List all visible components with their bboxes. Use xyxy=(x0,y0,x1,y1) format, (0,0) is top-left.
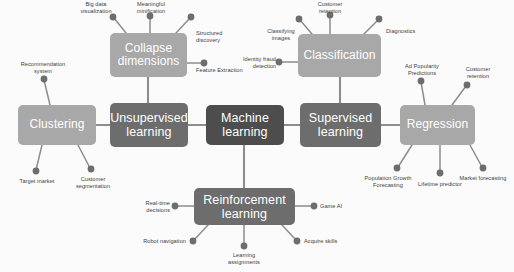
leaf-dot-population-growth-forecasting xyxy=(394,165,401,172)
leafedge-regression-1 xyxy=(421,82,425,105)
leaf-label-recommendation-system: Recommendation system xyxy=(10,61,76,75)
node-regression[interactable]: Regression xyxy=(400,105,475,145)
node-reinforcement-learning[interactable]: Reinforcement learning xyxy=(194,188,295,225)
leaf-label-identity-fraud-detection: Identity fraud detection xyxy=(208,56,276,70)
leaf-dot-learning-assignments xyxy=(241,243,248,250)
leafedge-regression-2 xyxy=(452,86,466,105)
leaf-label-diagnostics: Diagnostics xyxy=(386,28,448,35)
leaf-dot-identity-fraud-detection xyxy=(276,59,283,66)
node-unsupervised-learning[interactable]: Unsupervised learning xyxy=(110,103,188,147)
leafedge-clustering-2 xyxy=(36,145,42,170)
leaf-dot-lifetime-predictor xyxy=(437,170,444,177)
leafedge-clustering-3 xyxy=(78,145,90,168)
leafedge-collapse-3 xyxy=(176,18,190,33)
leaf-dot-real-time-decisions xyxy=(172,203,179,210)
leafedge-reinforcement-5 xyxy=(282,225,296,240)
node-supervised-learning[interactable]: Supervised learning xyxy=(300,103,381,147)
node-machine-learning[interactable]: Machine learning xyxy=(206,105,284,145)
leaf-dot-structured-discovery xyxy=(188,14,195,21)
leaf-label-game-ai: Game AI xyxy=(320,203,382,210)
node-clustering[interactable]: Clustering xyxy=(18,105,96,145)
leaf-label-classifying-images: Classifying images xyxy=(250,28,312,42)
leafedge-regression-5 xyxy=(398,145,412,167)
leafedge-clustering-1 xyxy=(44,80,50,105)
leaf-dot-target-market xyxy=(33,168,40,175)
leaf-dot-recommendation-system xyxy=(41,76,48,83)
leaf-label-customer-retention-classification: Customer retention xyxy=(299,1,361,15)
leaf-dot-game-ai xyxy=(311,203,318,210)
leaf-label-real-time-decisions: Real-time decisions xyxy=(110,200,170,214)
leaf-label-meaningful-minification: Meaningful minification xyxy=(120,1,182,15)
leafedge-reinforcement-3 xyxy=(194,225,208,240)
leaf-label-customer-segmentation: Customer segmentation xyxy=(62,176,124,190)
leafedge-regression-3 xyxy=(470,145,482,167)
leaf-dot-customer-retention-regression xyxy=(464,82,471,89)
leaf-label-learning-assignments: Learning assignments xyxy=(213,252,275,266)
leaf-dot-diagnostics xyxy=(376,16,383,23)
leaf-dot-classifying-images xyxy=(296,16,303,23)
leaf-label-population-growth-forecasting: Population Growth Forecasting xyxy=(355,175,421,189)
leaf-dot-feature-extraction xyxy=(201,60,208,67)
node-collapse-dimensions[interactable]: Collapse dimensions xyxy=(110,33,187,77)
leaf-label-big-data-visualization: Big data visualization xyxy=(65,1,127,15)
leaf-dot-customer-segmentation xyxy=(88,166,95,173)
leaf-label-target-market: Target market xyxy=(6,178,68,185)
leaf-label-ad-popularity-predictions: Ad Popularity Predictions xyxy=(391,63,453,77)
leaf-label-structured-discovery: Structured discovery xyxy=(196,30,258,44)
leaf-label-acquire-skills: Acquire skills xyxy=(304,238,366,245)
leafedge-classification-3 xyxy=(364,20,378,34)
leaf-label-customer-retention-regression: Customer retention xyxy=(447,66,509,80)
leaf-dot-robot-navigation xyxy=(190,238,197,245)
leaf-dot-ad-popularity-predictions xyxy=(418,78,425,85)
leaf-label-robot-navigation: Robot navigation xyxy=(124,238,186,245)
leaf-dot-acquire-skills xyxy=(294,238,301,245)
leaf-dot-market-forecasting xyxy=(480,165,487,172)
leafedge-collapse-1 xyxy=(114,18,126,33)
mindmap-canvas: Machine learning Unsupervised learning S… xyxy=(0,0,514,272)
